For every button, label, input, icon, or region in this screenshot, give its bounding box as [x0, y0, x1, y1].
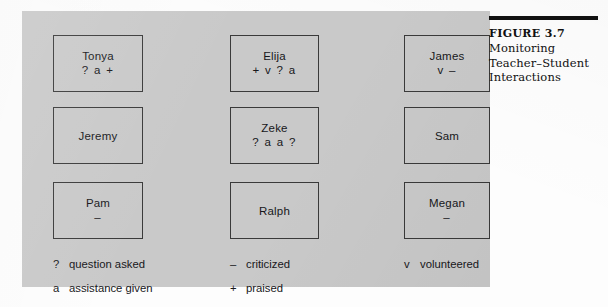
page-background: Tonya? a +JeremyPam–Elija+ v ? aZeke? a … — [0, 0, 608, 307]
student-box: Zeke? a a ? — [230, 107, 319, 164]
caption-line: Teacher–Student — [489, 56, 599, 71]
caption-figure-number: FIGURE 3.7 — [489, 27, 599, 41]
student-box: Jamesv – — [404, 35, 490, 92]
figure-caption: FIGURE 3.7 MonitoringTeacher–StudentInte… — [489, 16, 599, 85]
student-box: Ralph — [230, 182, 319, 239]
student-name: James — [430, 49, 465, 63]
student-codes: – — [443, 210, 451, 225]
legend-symbol: – — [230, 257, 241, 271]
student-name: Sam — [435, 129, 459, 143]
student-box: Tonya? a + — [53, 35, 143, 92]
legend-symbol: a — [53, 281, 64, 295]
legend-symbol: + — [230, 281, 241, 295]
legend-item: vvolunteered — [404, 257, 479, 271]
legend-item: –criticized — [230, 257, 290, 271]
student-box: Sam — [404, 107, 490, 164]
caption-line: Interactions — [489, 70, 599, 85]
student-name: Jeremy — [79, 129, 118, 143]
figure-panel: Tonya? a +JeremyPam–Elija+ v ? aZeke? a … — [22, 11, 490, 287]
caption-line: Monitoring — [489, 41, 599, 56]
caption-text: MonitoringTeacher–StudentInteractions — [489, 41, 599, 85]
student-name: Pam — [86, 196, 110, 210]
legend-symbol: ? — [53, 257, 64, 271]
student-name: Tonya — [82, 49, 114, 63]
student-box: Jeremy — [53, 107, 143, 164]
student-codes: ? a + — [82, 63, 114, 78]
student-codes: + v ? a — [253, 63, 297, 78]
legend-symbol: v — [404, 257, 415, 271]
student-box: Elija+ v ? a — [230, 35, 319, 92]
legend-item: ?question asked — [53, 257, 145, 271]
student-box: Pam– — [53, 182, 143, 239]
student-codes: ? a a ? — [252, 135, 296, 150]
caption-rule — [489, 16, 598, 20]
legend-label: volunteered — [420, 257, 479, 271]
student-name: Zeke — [261, 121, 287, 135]
student-codes: v – — [437, 63, 456, 78]
legend-label: praised — [246, 281, 283, 295]
student-name: Megan — [429, 196, 465, 210]
legend-label: assistance given — [69, 281, 153, 295]
legend-item: +praised — [230, 281, 283, 295]
student-codes: – — [94, 210, 102, 225]
student-box: Megan– — [404, 182, 490, 239]
student-name: Ralph — [259, 204, 290, 218]
student-name: Elija — [263, 49, 286, 63]
legend-item: aassistance given — [53, 281, 153, 295]
legend-label: question asked — [69, 257, 145, 271]
legend-label: criticized — [246, 257, 290, 271]
